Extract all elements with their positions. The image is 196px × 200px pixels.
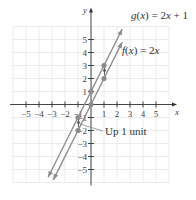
y-tick-label: 3 bbox=[83, 61, 88, 71]
y-axis-label: y bbox=[82, 5, 87, 15]
axes: xy bbox=[10, 5, 179, 186]
y-tick-label: 1 bbox=[83, 87, 88, 97]
annotation-up-1-unit: Up 1 unit bbox=[105, 125, 147, 137]
series-arrow-bottom-icon bbox=[53, 173, 58, 179]
x-tick-label: −5 bbox=[21, 109, 31, 119]
data-point bbox=[75, 115, 80, 120]
data-point bbox=[88, 89, 93, 94]
x-axis-label: x bbox=[174, 107, 179, 117]
data-point bbox=[88, 102, 93, 107]
y-tick-label: 2 bbox=[83, 74, 88, 84]
y-tick-label: −3 bbox=[77, 139, 87, 149]
function-graph: xy −5−4−3−2−112345−5−4−3−2−112345 g(x) =… bbox=[0, 0, 196, 200]
y-tick-label: 4 bbox=[83, 48, 88, 58]
g-function-label: g(x) = 2x + 1 bbox=[131, 9, 188, 22]
x-tick-label: −2 bbox=[60, 109, 70, 119]
data-point bbox=[101, 63, 106, 68]
data-point bbox=[75, 128, 80, 133]
x-tick-label: 4 bbox=[141, 109, 146, 119]
f-function-label: f(x) = 2x bbox=[122, 44, 160, 57]
x-tick-label: −3 bbox=[47, 109, 57, 119]
series-arrow-top-icon bbox=[117, 29, 122, 35]
y-tick-label: −5 bbox=[77, 165, 87, 175]
x-tick-label: −4 bbox=[34, 109, 44, 119]
y-tick-label: −4 bbox=[77, 152, 87, 162]
y-axis-arrow-icon bbox=[89, 8, 93, 13]
x-tick-label: 5 bbox=[154, 109, 159, 119]
data-point bbox=[101, 76, 106, 81]
x-tick-label: 2 bbox=[115, 109, 120, 119]
y-tick-label: 5 bbox=[83, 35, 88, 45]
x-tick-label: 3 bbox=[128, 109, 133, 119]
x-tick-label: 1 bbox=[102, 109, 107, 119]
